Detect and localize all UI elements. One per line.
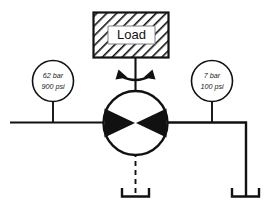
- pressure-gauge-left: 62 bar 900 psi: [33, 61, 74, 123]
- pressure-gauge-right: 7 bar 100 psi: [192, 61, 233, 123]
- schematic-canvas: Load 62 bar 900 psi 7 bar 100 psi: [0, 0, 279, 209]
- gauge-left-line-1: 62 bar: [43, 71, 64, 80]
- load-label: Load: [117, 27, 146, 42]
- hydraulic-motor-symbol: [104, 91, 168, 155]
- gauge-right-line-2: 100 psi: [200, 82, 224, 91]
- gauge-left-line-2: 900 psi: [41, 82, 65, 91]
- load-block: Load: [94, 13, 169, 58]
- gauge-right-line-1: 7 bar: [204, 71, 221, 80]
- hydraulic-schematic-diagram: Load 62 bar 900 psi 7 bar 100 psi: [0, 0, 279, 209]
